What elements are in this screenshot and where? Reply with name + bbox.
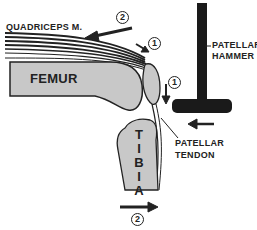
quadriceps-label: QUADRICEPS M. xyxy=(6,22,82,33)
step-2-marker-bottom: 2 xyxy=(131,213,144,226)
step-1-marker-top: 1 xyxy=(148,37,161,50)
patellar-hammer-label-2: HAMMER xyxy=(212,51,254,62)
step-2-marker-top: 2 xyxy=(116,11,129,24)
patellar-tendon-label-1: PATELLAR xyxy=(175,138,224,149)
patella-bone xyxy=(143,64,160,105)
tibia-letter-i: I xyxy=(133,142,145,155)
tibia-letter-i2: I xyxy=(133,170,145,183)
tibia-letter-t: T xyxy=(133,128,145,141)
tibia-letter-a: A xyxy=(133,184,145,197)
step-1-marker-mid: 1 xyxy=(168,76,181,89)
femur-label: FEMUR xyxy=(30,73,78,84)
tibia-letter-b: B xyxy=(133,156,145,169)
patellar-tendon-label-2: TENDON xyxy=(175,150,215,161)
patellar-hammer-label-1: PATELLAR xyxy=(212,40,257,51)
femur-bone xyxy=(10,62,142,110)
knee-reflex-illustration xyxy=(0,0,257,230)
